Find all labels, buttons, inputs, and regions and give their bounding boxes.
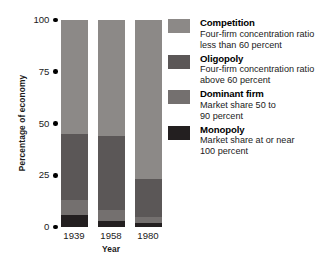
legend-item-competition: CompetitionFour-firm concentration ratio… [168,17,323,51]
stacked-bar-1939 [61,20,88,227]
bar-segment-oligopoly [135,179,162,216]
legend-item-title: Dominant firm [200,88,323,100]
legend-item-dominant-firm: Dominant firmMarket share 50 to90 percen… [168,88,323,122]
bar-segment-oligopoly [98,136,125,211]
y-axis-tick-dot-icon [53,225,58,230]
legend-item-oligopoly: OligopolyFour-firm concentration ratioab… [168,53,323,87]
x-axis-tick-label: 1939 [54,230,94,241]
bar-segment-dominant-firm [98,210,125,220]
stacked-bar-1958 [98,20,125,227]
x-axis-tick-label: 1958 [91,230,131,241]
bar-segment-oligopoly [61,134,88,200]
legend-color-swatch [168,126,190,140]
legend-item-title: Oligopoly [200,53,323,65]
bar-segment-monopoly [98,221,125,227]
y-axis-tick-dot-icon [53,69,58,74]
legend-item-description-line2: less than 60 percent [200,40,323,51]
bar-segment-monopoly [61,215,88,227]
legend-item-description-line1: Market share 50 to [200,100,323,111]
legend-color-swatch [168,90,190,104]
legend-item-description-line1: Four-firm concentration ratio [200,29,323,40]
bar-segment-monopoly [135,223,162,227]
y-axis-tick: 50 [14,118,58,130]
legend-item-description-line1: Four-firm concentration ratio [200,64,323,75]
legend-item-title: Monopoly [200,124,323,136]
y-axis-tick: 25 [14,169,58,181]
y-axis-tick-label: 100 [33,14,49,26]
legend-item-description-line2: 100 percent [200,146,323,157]
legend-color-swatch [168,19,190,33]
x-axis-title: Year [54,244,168,254]
y-axis-tick-label: 50 [39,118,50,130]
stacked-bar-1980 [135,20,162,227]
y-axis-tick-label: 0 [44,221,49,233]
y-axis-tick-dot-icon [53,173,58,178]
bar-segment-competition [98,20,125,136]
bar-segment-dominant-firm [61,200,88,214]
legend-item-title: Competition [200,17,323,29]
y-axis-tick: 0 [14,221,58,233]
y-axis-tick-dot-icon [53,18,58,23]
y-axis-tick: 100 [14,14,58,26]
bar-segment-competition [135,20,162,179]
y-axis-tick-dot-icon [53,121,58,126]
legend-item-description-line1: Market share at or near [200,135,323,146]
x-axis-tick-label: 1980 [128,230,168,241]
y-axis-tick: 75 [14,66,58,78]
chart-figure: Percentage of economy 1007550250 1939195… [0,0,325,268]
legend-item-description-line2: 90 percent [200,111,323,122]
bar-segment-competition [61,20,88,134]
y-axis-tick-label: 25 [39,169,50,181]
legend-color-swatch [168,55,190,69]
chart-legend: CompetitionFour-firm concentration ratio… [168,17,323,159]
plot-area [61,20,164,227]
legend-item-description-line2: above 60 percent [200,75,323,86]
y-axis-tick-label: 75 [39,66,50,78]
legend-item-monopoly: MonopolyMarket share at or near100 perce… [168,124,323,158]
